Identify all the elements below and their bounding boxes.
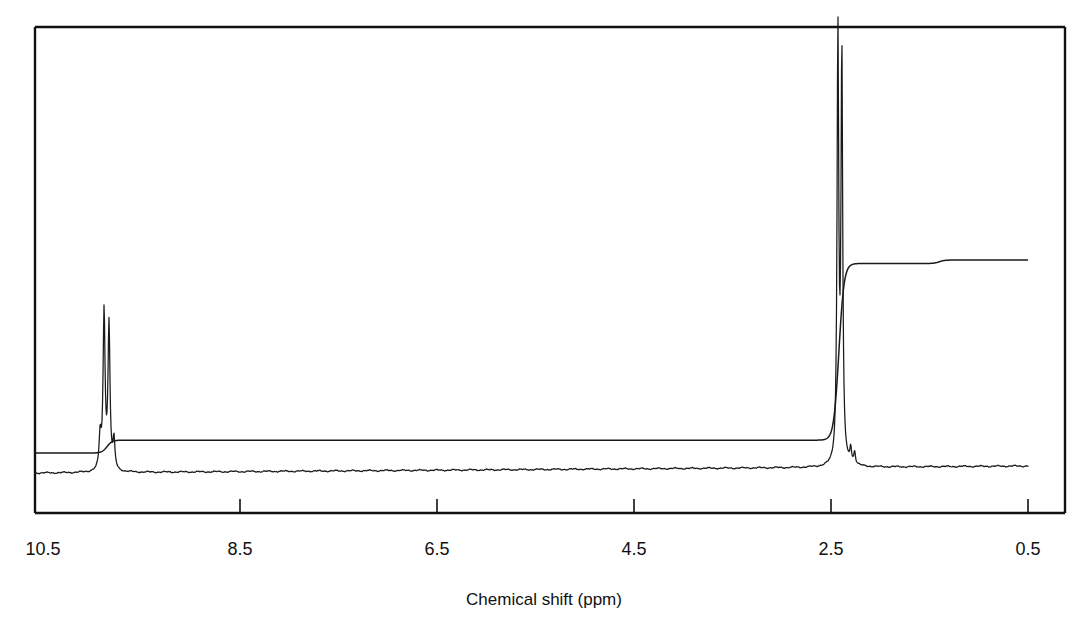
x-axis-ticks xyxy=(240,499,1028,513)
nmr-spectrum-plot: 10.5 8.5 6.5 4.5 2.5 0.5 Chemical shift … xyxy=(0,0,1088,642)
x-tick-label-0-5: 0.5 xyxy=(1015,539,1040,559)
x-tick-label-10-5: 10.5 xyxy=(25,539,60,559)
x-tick-label-6-5: 6.5 xyxy=(424,539,449,559)
x-tick-label-2-5: 2.5 xyxy=(818,539,843,559)
x-axis-tick-labels: 10.5 8.5 6.5 4.5 2.5 0.5 xyxy=(25,539,1040,559)
x-tick-label-4-5: 4.5 xyxy=(621,539,646,559)
x-axis-title: Chemical shift (ppm) xyxy=(466,590,622,609)
x-tick-label-8-5: 8.5 xyxy=(227,539,252,559)
spectrum-trace xyxy=(35,17,1028,474)
figure-canvas: 10.5 8.5 6.5 4.5 2.5 0.5 Chemical shift … xyxy=(0,0,1088,642)
integration-curve xyxy=(35,260,1028,453)
